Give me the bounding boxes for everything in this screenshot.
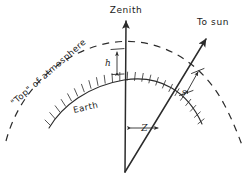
- atmospheric-path-diagram: Zenith To sun "Top" of atmosphere Earth …: [0, 0, 246, 179]
- sun-ray: [125, 39, 206, 172]
- top-of-atmosphere-label: "Top" of atmosphere: [9, 37, 88, 108]
- atmosphere-top-arc: [6, 41, 243, 148]
- earth-label: Earth: [72, 100, 99, 115]
- zenith-angle-z-label: Z: [140, 123, 148, 133]
- zenith-label: Zenith: [110, 5, 143, 15]
- height-marker-h: [111, 49, 124, 75]
- zenith-ray: [125, 21, 126, 172]
- height-h-label: h: [105, 58, 111, 68]
- to-sun-label: To sun: [196, 17, 229, 27]
- diagram-canvas: Zenith To sun "Top" of atmosphere Earth …: [0, 0, 246, 179]
- slant-s-label: s: [182, 87, 187, 97]
